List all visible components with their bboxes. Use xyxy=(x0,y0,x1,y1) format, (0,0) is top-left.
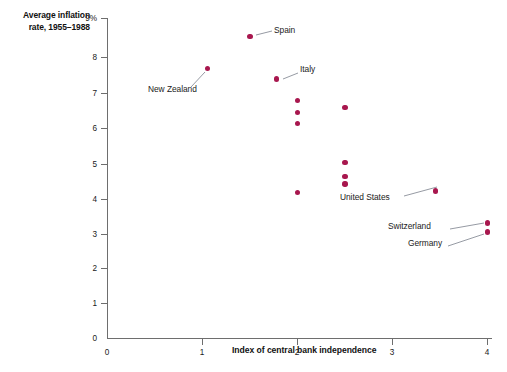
point-label-united-states: United States xyxy=(340,192,390,202)
x-tick-label-2: 2 xyxy=(287,348,307,357)
data-point-7 xyxy=(342,160,347,165)
data-point-9 xyxy=(342,181,347,186)
x-tick-label-1: 1 xyxy=(192,348,212,357)
data-point-united-states xyxy=(433,188,438,193)
y-tick-label-5: 5 xyxy=(71,160,97,169)
data-point-3 xyxy=(295,98,300,103)
data-point-italy xyxy=(274,76,279,81)
y-tick-label-1: 1 xyxy=(71,299,97,308)
x-tick-label-4: 4 xyxy=(477,348,497,357)
y-axis-ticks xyxy=(101,19,107,304)
y-tick-label-8: 8 xyxy=(71,53,97,62)
point-label-italy: Italy xyxy=(300,64,315,74)
data-point-germany xyxy=(485,229,490,234)
y-tick-label-6: 6 xyxy=(71,124,97,133)
y-tick-label-4: 4 xyxy=(71,195,97,204)
x-tick-label-0: 0 xyxy=(97,348,117,357)
x-axis-ticks xyxy=(203,338,488,345)
data-point-spain xyxy=(247,34,252,39)
x-tick-label-3: 3 xyxy=(382,348,402,357)
point-label-spain: Spain xyxy=(274,25,295,35)
leader-line-germany xyxy=(448,234,484,246)
leader-line-spain xyxy=(256,31,272,35)
data-point-switzerland xyxy=(485,220,490,225)
annotation-leader-lines xyxy=(191,31,484,246)
y-tick-label-9: 9% xyxy=(71,14,97,23)
y-tick-label-0: 0 xyxy=(71,334,97,343)
data-point-new-zealand xyxy=(205,66,210,71)
leader-line-switzerland xyxy=(450,223,484,229)
point-label-switzerland: Switzerland xyxy=(388,221,431,231)
y-tick-label-7: 7 xyxy=(71,89,97,98)
y-tick-label-3: 3 xyxy=(71,230,97,239)
point-label-germany: Germany xyxy=(408,238,442,248)
point-label-new-zealand: New Zealand xyxy=(148,84,197,94)
leader-line-italy xyxy=(283,73,298,79)
y-tick-label-2: 2 xyxy=(71,264,97,273)
data-point-6 xyxy=(342,105,347,110)
